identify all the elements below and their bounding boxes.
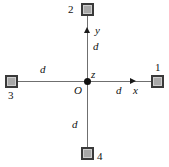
- distance-label-left: d: [40, 64, 46, 75]
- charge-square-1: [151, 75, 164, 88]
- origin-label: O: [74, 85, 82, 96]
- y-axis-arrowhead-icon: [84, 27, 90, 33]
- charge-square-2: [81, 3, 94, 16]
- origin-point: [84, 78, 91, 85]
- charge-label-3: 3: [8, 90, 14, 101]
- charge-square-4: [81, 147, 94, 160]
- charge-label-2: 2: [68, 4, 74, 15]
- y-axis-label: y: [95, 25, 100, 36]
- distance-label-right: d: [116, 85, 122, 96]
- distance-label-up: d: [93, 41, 99, 52]
- distance-label-down: d: [72, 119, 78, 130]
- physics-figure-four-charges: 2 1 3 4 y x z O d d d d: [0, 0, 169, 167]
- x-axis-label: x: [133, 85, 138, 96]
- charge-label-1: 1: [155, 62, 161, 73]
- charge-square-3: [5, 75, 18, 88]
- charge-label-4: 4: [97, 151, 103, 162]
- z-axis-label: z: [91, 69, 95, 80]
